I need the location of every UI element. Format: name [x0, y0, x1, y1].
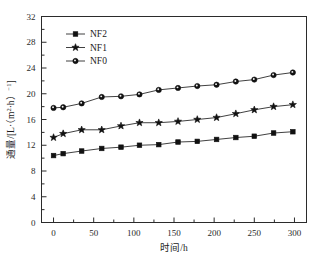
marker-square	[234, 135, 239, 140]
marker-circle-highlight	[291, 71, 293, 73]
marker-square	[51, 153, 56, 158]
y-tick-label: 28	[27, 37, 37, 47]
marker-square	[195, 139, 200, 144]
marker-circle-highlight	[253, 78, 255, 80]
marker-square	[61, 151, 66, 156]
marker-circle-highlight	[100, 95, 102, 97]
x-tick-label: 200	[207, 228, 221, 238]
y-axis-title: 通量/[L·（m2·h）−1]	[5, 80, 16, 158]
y-tick-label: 12	[27, 140, 36, 150]
x-tick-label: 0	[51, 228, 56, 238]
flux-vs-time-line-chart: 050100150200250300 048121620242832 NF2NF…	[0, 0, 323, 262]
legend-label-nf0: NF0	[90, 56, 107, 66]
marker-circle-highlight	[272, 74, 274, 76]
y-tick-label: 8	[31, 166, 36, 176]
chart-figure: 050100150200250300 048121620242832 NF2NF…	[0, 0, 323, 262]
marker-square	[214, 137, 219, 142]
marker-square	[73, 32, 78, 37]
marker-circle-highlight	[196, 84, 198, 86]
y-tick-label: 4	[31, 192, 36, 202]
y-tick-label: 20	[27, 89, 37, 99]
marker-circle-highlight	[215, 83, 217, 85]
marker-square	[271, 131, 276, 136]
marker-square	[156, 142, 161, 147]
legend-label-nf1: NF1	[90, 43, 107, 53]
legend-label-nf2: NF2	[90, 29, 107, 39]
marker-circle-highlight	[52, 106, 54, 108]
marker-square	[137, 143, 142, 148]
marker-square	[99, 146, 104, 151]
y-tick-label: 16	[27, 115, 37, 125]
marker-circle-highlight	[80, 102, 82, 104]
marker-square	[176, 140, 181, 145]
x-tick-label: 300	[288, 228, 302, 238]
marker-circle-highlight	[74, 59, 76, 61]
marker-circle-highlight	[138, 93, 140, 95]
y-tick-label: 24	[27, 63, 37, 73]
marker-square	[119, 145, 124, 150]
x-tick-label: 100	[127, 228, 141, 238]
x-tick-label: 50	[89, 228, 99, 238]
marker-circle-highlight	[62, 106, 64, 108]
marker-square	[291, 129, 296, 134]
marker-square	[252, 134, 257, 139]
x-tick-label: 250	[248, 228, 262, 238]
marker-circle-highlight	[157, 88, 159, 90]
marker-circle-highlight	[177, 86, 179, 88]
y-tick-label: 32	[27, 12, 36, 22]
y-tick-label: 0	[31, 218, 36, 228]
marker-circle-highlight	[120, 95, 122, 97]
x-axis-title: 时间/h	[160, 242, 188, 253]
marker-circle-highlight	[234, 80, 236, 82]
x-tick-label: 150	[167, 228, 181, 238]
marker-square	[79, 149, 84, 154]
